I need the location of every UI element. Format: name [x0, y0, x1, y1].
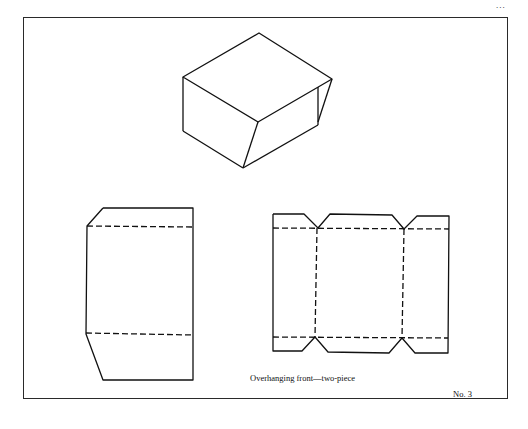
- body-net: [273, 214, 449, 353]
- plate-number: No. 3: [453, 389, 472, 399]
- assembled-box: [183, 33, 332, 168]
- lid-net: [86, 208, 193, 380]
- diagram-canvas: [0, 0, 528, 429]
- figure-caption: Overhanging front—two-piece: [250, 373, 355, 383]
